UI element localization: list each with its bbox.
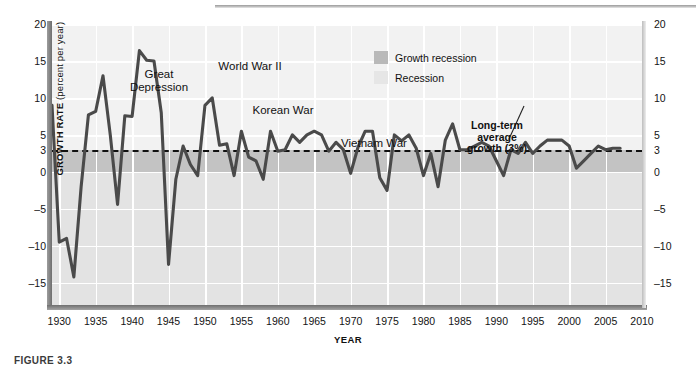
x-axis-ticks: 1930193519401945195019551960196519701975… — [0, 316, 696, 330]
y-axis-tick-label: 10 — [34, 93, 46, 103]
page-top-rule — [215, 5, 696, 8]
x-axis-title: YEAR — [0, 334, 696, 345]
x-axis-tick-label: 1985 — [448, 316, 471, 327]
legend-label-recession: Recession — [395, 72, 444, 84]
x-axis-tick-label: 1955 — [230, 316, 253, 327]
x-axis-tick-label: 1970 — [339, 316, 362, 327]
legend-swatch-growth-recession — [374, 51, 388, 64]
annotation-long-term-average: Long-term average growth (3%) — [456, 120, 538, 155]
y-axis-tick-label: –15 — [28, 278, 46, 288]
x-axis-tick-label: 1930 — [48, 316, 71, 327]
annotation-world-war-ii: World War II — [202, 60, 298, 73]
x-axis-tick-label: 1995 — [521, 316, 544, 327]
legend-item-growth-recession: Growth recession — [374, 50, 477, 65]
legend-item-recession: Recession — [374, 70, 477, 85]
x-axis-tick-label: 1965 — [303, 316, 326, 327]
y-axis-tick-label: 0 — [654, 167, 660, 177]
x-axis-tick-label: 1940 — [120, 316, 143, 327]
y-axis-tick-label: –5 — [34, 204, 46, 214]
x-axis-tick-label: 1935 — [84, 316, 107, 327]
figure-caption: FIGURE 3.3 — [14, 355, 72, 366]
annotation-great-depression: Great Depression — [120, 68, 198, 93]
x-axis-tick-label: 1945 — [157, 316, 180, 327]
chart-plot-area: Great Depression World War II Korean War… — [52, 24, 642, 305]
y-axis-line — [47, 21, 52, 308]
y-axis-tick-label: 0 — [40, 167, 46, 177]
y-axis-tick-label: 20 — [654, 19, 666, 29]
y-axis-title: GROWTH RATE (percent per year) — [54, 46, 65, 176]
y-axis-tick-label: 5 — [654, 130, 660, 140]
annotation-korean-war: Korean War — [244, 104, 322, 117]
y-axis-title-bold: GROWTH RATE — [54, 103, 65, 176]
y-axis-tick-label: –10 — [654, 241, 672, 251]
annotation-leader-line — [52, 24, 642, 305]
y-axis-tick-label: 20 — [34, 19, 46, 29]
y-axis-tick-label: 10 — [654, 93, 666, 103]
x-axis-tick-label: 1960 — [266, 316, 289, 327]
x-axis-line — [47, 305, 647, 310]
x-axis-tick-label: 2000 — [557, 316, 580, 327]
y-axis-tick-label: –10 — [28, 241, 46, 251]
y-axis-tick-label: 3 — [40, 145, 46, 155]
x-axis-tick-label: 1950 — [193, 316, 216, 327]
y-axis-tick-label: 5 — [40, 130, 46, 140]
chart-legend: Growth recession Recession — [374, 50, 477, 90]
y-axis-ticks-left: 201510530–5–10–15 — [18, 24, 46, 305]
x-axis-tick-label: 2005 — [594, 316, 617, 327]
y-axis-title-units: (percent per year) — [54, 22, 65, 103]
y-axis-tick-label: 15 — [34, 56, 46, 66]
x-axis-tick-label: 2010 — [630, 316, 653, 327]
y-axis-tick-label: –15 — [654, 278, 672, 288]
x-axis-tick-label: 1980 — [412, 316, 435, 327]
legend-swatch-recession — [374, 71, 388, 84]
plot-right-edge — [642, 21, 646, 308]
y-axis-ticks-right: 201510530–5–10–15 — [648, 24, 678, 305]
legend-label-growth-recession: Growth recession — [395, 52, 477, 64]
x-axis-tick-label: 1975 — [375, 316, 398, 327]
y-axis-tick-label: –5 — [654, 204, 666, 214]
annotation-vietnam-war: Vietnam War — [332, 137, 416, 150]
y-axis-tick-label: 3 — [654, 145, 660, 155]
y-axis-tick-label: 15 — [654, 56, 666, 66]
x-axis-tick-label: 1990 — [485, 316, 508, 327]
